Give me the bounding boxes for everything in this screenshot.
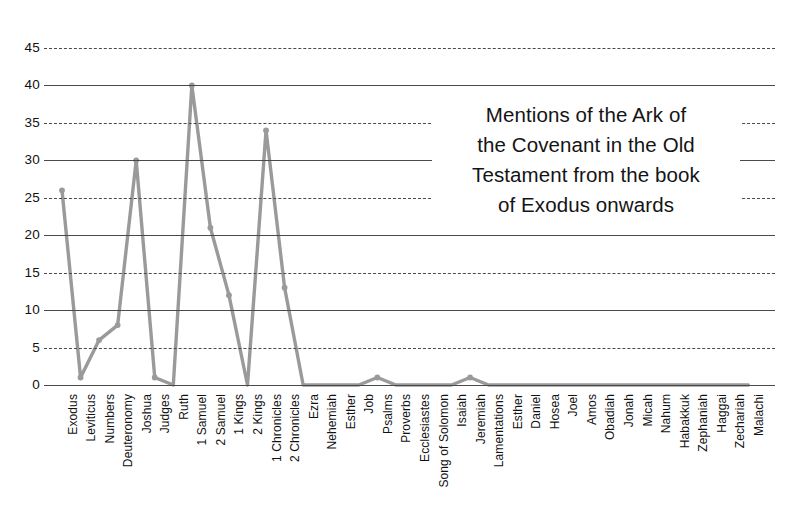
x-tick-label: 2 Samuel	[215, 394, 227, 446]
x-tick-label: Zechariah	[734, 394, 746, 448]
x-tick-label: Nehemiah	[326, 394, 338, 450]
x-tick-label: 1 Chronicles	[271, 394, 283, 462]
y-tick-label-15: 15	[0, 266, 40, 280]
x-tick-label: Psalms	[382, 394, 394, 434]
x-tick-label: Job	[363, 394, 375, 414]
x-tick-label: Joel	[567, 394, 579, 416]
gridline-y-10	[44, 310, 775, 311]
x-tick-label: Amos	[586, 394, 598, 425]
data-point-marker	[152, 375, 158, 381]
data-point-marker	[208, 225, 214, 231]
gridline-y-15	[44, 273, 775, 274]
y-tick-label-45: 45	[0, 41, 40, 55]
chart-title-line: Testament from the book	[436, 160, 736, 190]
x-tick-label: Nahum	[660, 394, 672, 433]
data-point-marker	[96, 337, 102, 343]
data-point-marker	[374, 375, 380, 381]
x-tick-label: Joshua	[141, 394, 153, 433]
y-tick-label-10: 10	[0, 303, 40, 317]
x-tick-label: Numbers	[104, 394, 116, 443]
data-point-marker	[78, 375, 84, 381]
x-tick-label: Deuteronomy	[122, 394, 134, 467]
chart-title: Mentions of the Ark ofthe Covenant in th…	[432, 94, 740, 229]
x-tick-label: 2 Kings	[252, 394, 264, 435]
gridline-y-0	[44, 385, 775, 386]
x-tick-label: Isaiah	[456, 394, 468, 427]
gridline-y-45	[44, 48, 775, 49]
x-tick-label: 1 Samuel	[196, 394, 208, 446]
x-tick-label: Ecclesiastes	[419, 394, 431, 462]
chart-title-line: of Exodus onwards	[436, 190, 736, 220]
x-tick-label: 2 Chronicles	[289, 394, 301, 462]
x-tick-label: Proverbs	[400, 394, 412, 443]
x-tick-label: Ezra	[308, 394, 320, 419]
x-tick-label: Song of Solomon	[438, 394, 450, 488]
x-tick-label: Exodus	[67, 394, 79, 435]
x-tick-label: Micah	[642, 394, 654, 427]
x-tick-label: Leviticus	[85, 394, 97, 442]
gridline-y-20	[44, 235, 775, 236]
x-tick-label: Daniel	[530, 394, 542, 429]
gridline-y-40	[44, 85, 775, 86]
y-tick-label-0: 0	[0, 378, 40, 392]
y-tick-label-35: 35	[0, 116, 40, 130]
x-tick-label: Judges	[159, 394, 171, 433]
data-point-marker	[226, 292, 232, 298]
x-tick-label: 1 Kings	[233, 394, 245, 435]
x-tick-label: Ruth	[178, 394, 190, 420]
x-tick-label: Jonah	[623, 394, 635, 427]
x-tick-label: Malachi	[753, 394, 765, 436]
y-tick-label-25: 25	[0, 191, 40, 205]
gridline-y-5	[44, 348, 775, 349]
x-tick-label: Obadiah	[604, 394, 616, 440]
x-tick-label: Habakkuk	[679, 394, 691, 448]
y-tick-label-30: 30	[0, 154, 40, 168]
x-tick-label: Lamentations	[493, 394, 505, 467]
x-tick-label: Esther	[345, 394, 357, 429]
chart-title-line: the Covenant in the Old	[436, 130, 736, 160]
data-point-marker	[467, 375, 473, 381]
y-tick-label-5: 5	[0, 341, 40, 355]
data-point-marker	[59, 187, 65, 193]
data-point-marker	[115, 322, 121, 328]
chart-title-line: Mentions of the Ark of	[436, 100, 736, 130]
x-axis-labels: ExodusLeviticusNumbersDeuteronomyJoshuaJ…	[44, 394, 775, 518]
y-tick-label-20: 20	[0, 228, 40, 242]
x-tick-label: Haggai	[716, 394, 728, 433]
x-tick-label: Zephaniah	[697, 394, 709, 452]
y-tick-label-40: 40	[0, 79, 40, 93]
x-tick-label: Esther	[512, 394, 524, 429]
x-tick-label: Jeremiah	[475, 394, 487, 444]
x-tick-label: Hosea	[549, 394, 561, 429]
data-point-marker	[282, 285, 288, 291]
data-point-marker	[263, 127, 269, 133]
chart-container: 051015202530354045 ExodusLeviticusNumber…	[0, 0, 795, 520]
